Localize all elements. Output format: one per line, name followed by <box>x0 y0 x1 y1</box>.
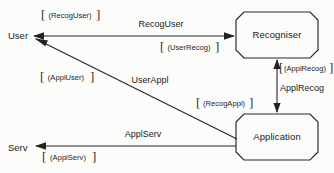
node-serv[interactable]: Serv <box>8 142 28 153</box>
bracket-recoguser: [ (RecogUser) ] <box>41 7 100 22</box>
edge-label-recoguser: RecogUser <box>138 19 183 29</box>
bracket-userrecog-text: (UserRecog) <box>167 43 211 52</box>
bracket-close-glyph: ] <box>92 149 96 164</box>
bracket-recoguser-text: (RecogUser) <box>48 11 92 20</box>
bracket-appluser: [ (ApplUser) ] <box>40 69 94 84</box>
bracket-close-glyph: ] <box>96 7 100 22</box>
bracket-open-glyph: [ <box>160 39 164 54</box>
edge-recogniser-application[interactable]: ApplRecog [ (ApplRecog) ] [ (RecogAppl) … <box>196 59 333 113</box>
bracket-userrecog: [ (UserRecog) ] <box>160 39 219 54</box>
bracket-recogappl-text: (RecogAppl) <box>203 99 246 108</box>
edge-label-applrecog: ApplRecog <box>280 83 324 93</box>
edge-application-user[interactable]: UserAppl [ (ApplUser) ] <box>35 38 238 139</box>
edge-user-recogniser[interactable]: RecogUser [ (RecogUser) ] [ (UserRecog) … <box>33 7 235 54</box>
bracket-applserv-text: (ApplServ) <box>50 153 86 162</box>
edge-label-applserv: ApplServ <box>125 129 162 139</box>
bracket-close-glyph: ] <box>329 60 333 75</box>
arrowhead-to-user-diagonal <box>35 38 49 46</box>
edge-application-serv[interactable]: ApplServ [ (ApplServ) ] <box>35 129 236 164</box>
bracket-open-glyph: [ <box>279 60 283 75</box>
recogniser-label: Recogniser <box>252 29 301 40</box>
bracket-open-glyph: [ <box>40 69 44 84</box>
edge-label-userappl: UserAppl <box>131 75 168 85</box>
bracket-close-glyph: ] <box>215 39 219 54</box>
node-recogniser[interactable]: Recogniser <box>236 12 318 58</box>
user-label: User <box>8 30 28 41</box>
node-user[interactable]: User <box>8 30 28 41</box>
bracket-close-glyph: ] <box>90 69 94 84</box>
bracket-recogappl: [ (RecogAppl) ] <box>196 95 253 110</box>
bracket-applserv: [ (ApplServ) ] <box>42 149 96 164</box>
bracket-appluser-text: (ApplUser) <box>48 73 85 82</box>
node-application[interactable]: Application <box>236 114 318 160</box>
application-label: Application <box>253 131 301 142</box>
arrowhead-to-application-vertical <box>273 103 280 113</box>
arrowhead-to-user <box>33 32 44 40</box>
communication-diagram: Recogniser Application User Serv RecogUs… <box>0 0 334 173</box>
diagram-canvas: Recogniser Application User Serv RecogUs… <box>0 0 334 173</box>
bracket-applrecog: [ (ApplRecog) ] <box>279 60 333 75</box>
serv-label: Serv <box>8 142 28 153</box>
bracket-open-glyph: [ <box>42 149 46 164</box>
bracket-close-glyph: ] <box>249 95 253 110</box>
edge-application-user-line <box>36 39 237 139</box>
bracket-open-glyph: [ <box>196 95 200 110</box>
arrowhead-to-recogniser <box>224 32 235 40</box>
bracket-applrecog-text: (ApplRecog) <box>284 64 327 73</box>
bracket-open-glyph: [ <box>41 7 45 22</box>
